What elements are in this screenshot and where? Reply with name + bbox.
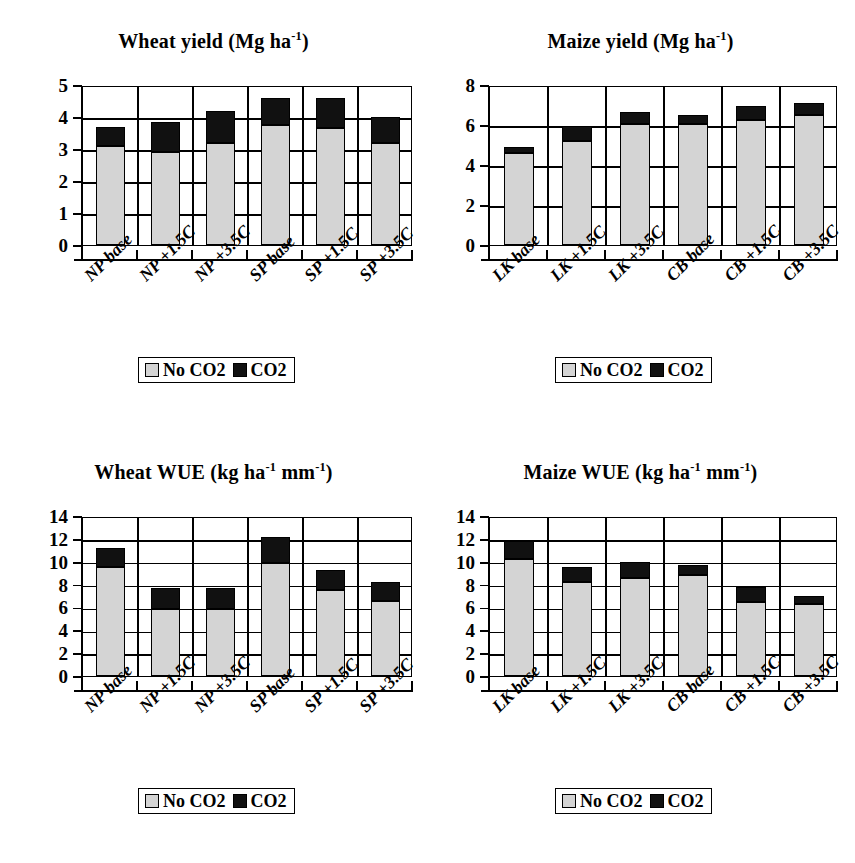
y-tick-label: 3 (0, 139, 68, 161)
y-tick-label: 6 (427, 597, 475, 619)
y-axis-line (81, 517, 83, 691)
x-tick-mark (301, 250, 303, 259)
gridline-vertical (137, 518, 139, 676)
bar-segment-co2 (96, 548, 125, 567)
x-tick-mark (81, 250, 83, 259)
gridline-vertical (137, 87, 139, 245)
legend: No CO2CO2 (555, 788, 712, 814)
x-tick-mark (246, 681, 248, 690)
bar-lk-3-5c (620, 112, 650, 245)
bar-segment-co2 (371, 117, 400, 143)
y-tick-label: 8 (427, 575, 475, 597)
legend-swatch-no-co2-icon (562, 794, 576, 808)
x-tick-mark (356, 681, 358, 690)
y-tick-label: 12 (0, 529, 68, 551)
legend-label-co2: CO2 (251, 792, 287, 810)
y-tick-label: 1 (0, 203, 68, 225)
gridline-vertical (302, 518, 304, 676)
bar-segment-no-co2 (316, 128, 345, 245)
x-axis-line (481, 690, 838, 692)
x-tick-mark (604, 250, 606, 259)
gridline-vertical (779, 87, 781, 245)
y-tick-label: 14 (427, 506, 475, 528)
x-tick-mark (411, 250, 413, 259)
legend-label-no-co2: No CO2 (580, 792, 643, 810)
x-tick-mark (81, 681, 83, 690)
x-tick-mark (488, 681, 490, 690)
legend-label-no-co2: No CO2 (163, 361, 226, 379)
panel-maize-yield: Maize yield (Mg ha-1) 02468LK baseLK +1.… (427, 0, 854, 431)
legend-label-no-co2: No CO2 (580, 361, 643, 379)
bar-segment-co2 (371, 582, 400, 600)
bar-cb-3-5c (794, 103, 824, 245)
legend-swatch-co2-icon (233, 794, 247, 808)
plot-wrap-wheat-wue: 02468101214NP baseNP +1.5CNP +3.5CSP bas… (0, 431, 427, 862)
legend-item-no-co2: No CO2 (145, 792, 226, 810)
y-tick-label: 8 (427, 75, 475, 97)
y-axis-line (81, 86, 83, 260)
bar-segment-co2 (562, 567, 592, 582)
bar-segment-co2 (620, 562, 650, 578)
gridline-vertical (605, 518, 607, 676)
gridline-vertical (247, 87, 249, 245)
y-tick-label: 2 (0, 643, 68, 665)
plot-area (489, 517, 837, 677)
bar-segment-no-co2 (261, 125, 290, 245)
bar-segment-co2 (316, 570, 345, 591)
y-tick-label: 12 (427, 529, 475, 551)
legend-item-no-co2: No CO2 (145, 361, 226, 379)
x-tick-mark (136, 681, 138, 690)
legend-swatch-co2-icon (650, 363, 664, 377)
bar-segment-co2 (562, 126, 592, 141)
bar-segment-no-co2 (504, 559, 534, 676)
bar-segment-no-co2 (794, 115, 824, 245)
x-tick-mark (356, 250, 358, 259)
legend-item-no-co2: No CO2 (562, 361, 643, 379)
gridline-vertical (547, 87, 549, 245)
y-tick-label: 4 (427, 620, 475, 642)
bar-segment-co2 (206, 588, 235, 609)
y-tick-label: 5 (0, 75, 68, 97)
x-tick-mark (191, 250, 193, 259)
bar-segment-no-co2 (736, 120, 766, 245)
gridline-vertical (357, 518, 359, 676)
bar-segment-co2 (261, 537, 290, 563)
x-tick-mark (662, 681, 664, 690)
y-axis-line (488, 517, 490, 691)
gridline-vertical (663, 87, 665, 245)
bar-sp-base (261, 98, 290, 245)
legend-item-co2: CO2 (233, 361, 287, 379)
gridline-vertical (302, 87, 304, 245)
x-axis-line (74, 259, 413, 261)
x-tick-mark (301, 681, 303, 690)
x-tick-mark (546, 250, 548, 259)
x-tick-mark (778, 681, 780, 690)
x-tick-mark (662, 250, 664, 259)
legend: No CO2CO2 (555, 357, 712, 383)
y-axis-line (488, 86, 490, 260)
gridline-vertical (247, 518, 249, 676)
bar-segment-co2 (794, 596, 824, 604)
panel-wheat-wue: Wheat WUE (kg ha-1 mm-1) 02468101214NP b… (0, 431, 427, 862)
legend-item-no-co2: No CO2 (562, 792, 643, 810)
legend-swatch-co2-icon (233, 363, 247, 377)
bar-cb-1-5c (736, 106, 766, 245)
bar-lk-1-5c (562, 126, 592, 245)
y-tick-label: 4 (0, 107, 68, 129)
legend-item-co2: CO2 (233, 792, 287, 810)
figure-root: Wheat yield (Mg ha-1) 012345NP baseNP +1… (0, 0, 855, 863)
legend: No CO2CO2 (138, 357, 295, 383)
plot-area (82, 86, 412, 246)
bar-lk-base (504, 541, 534, 676)
bar-segment-co2 (206, 111, 235, 143)
bar-np-3-5c (206, 111, 235, 245)
bar-segment-co2 (736, 587, 766, 602)
bar-sp-base (261, 537, 290, 676)
bar-cb-base (678, 115, 708, 245)
y-tick-label: 10 (0, 552, 68, 574)
bar-segment-no-co2 (261, 563, 290, 676)
x-tick-mark (488, 250, 490, 259)
y-tick-label: 14 (0, 506, 68, 528)
y-tick-label: 2 (427, 643, 475, 665)
legend-item-co2: CO2 (650, 792, 704, 810)
